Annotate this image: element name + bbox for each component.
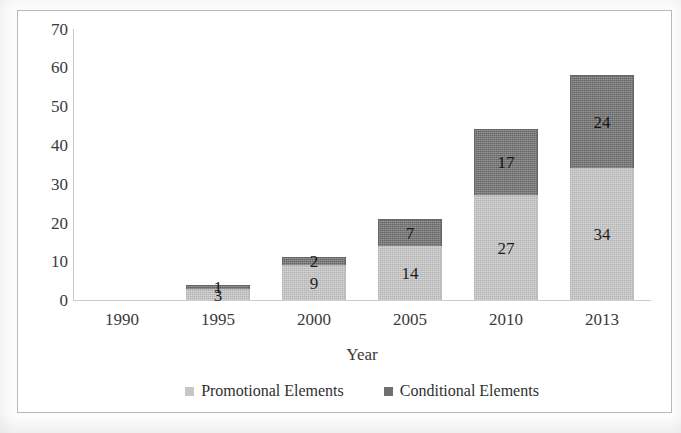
bar-segment-conditional-2010[interactable]: 17: [474, 129, 538, 195]
bar-segment-promotional-2013[interactable]: 34: [570, 168, 634, 300]
bar-stack-2000: 2 9: [282, 257, 346, 300]
legend-label-conditional: Conditional Elements: [400, 383, 539, 399]
x-tick-2013: 2013: [554, 309, 650, 331]
y-tick-0: 0: [32, 292, 68, 309]
bar-stack-1995: 1 3: [186, 285, 250, 300]
bar-stack-2013: 24 34: [570, 75, 634, 300]
y-axis-labels: 70 60 50 40 30 20 10 0: [26, 11, 68, 433]
bar-segment-promotional-1995[interactable]: 3: [186, 289, 250, 300]
bar-segment-conditional-2000[interactable]: 2: [282, 257, 346, 265]
scanned-page: 70 60 50 40 30 20 10 0 1: [0, 0, 681, 433]
legend-swatch-icon-conditional: [384, 387, 393, 396]
bar-segment-promotional-2005[interactable]: 14: [378, 246, 442, 300]
bar-label-promotional-1995: 3: [214, 287, 223, 304]
legend-item-promotional[interactable]: Promotional Elements: [185, 383, 344, 399]
bar-label-promotional-2010: 27: [498, 240, 515, 257]
x-tick-2005: 2005: [362, 309, 458, 331]
y-tick-50: 50: [32, 98, 68, 115]
y-tick-30: 30: [32, 176, 68, 193]
x-tick-2000: 2000: [266, 309, 362, 331]
bar-stack-2010: 17 27: [474, 129, 538, 300]
y-tick-40: 40: [32, 137, 68, 154]
y-tick-10: 10: [32, 253, 68, 270]
x-axis-labels: 1990 1995 2000 2005 2010 2013: [73, 309, 651, 337]
bar-stack-2005: 7 14: [378, 219, 442, 300]
plot-area: 1 3 2 9: [73, 29, 651, 300]
bar-label-promotional-2005: 14: [402, 265, 419, 282]
legend-item-conditional[interactable]: Conditional Elements: [384, 383, 539, 399]
legend-label-promotional: Promotional Elements: [201, 383, 344, 399]
legend-swatch-icon-promotional: [185, 387, 194, 396]
bar-segment-promotional-2010[interactable]: 27: [474, 195, 538, 300]
x-tick-1995: 1995: [170, 309, 266, 331]
bar-label-conditional-2005: 7: [406, 225, 415, 242]
x-tick-2010: 2010: [458, 309, 554, 331]
x-axis-title: Year: [73, 345, 651, 365]
x-tick-1990: 1990: [74, 309, 170, 331]
bar-label-conditional-2000: 2: [310, 253, 319, 270]
y-tick-20: 20: [32, 215, 68, 232]
bar-segment-conditional-2005[interactable]: 7: [378, 219, 442, 246]
chart-legend: Promotional Elements Conditional Element…: [73, 383, 651, 399]
bar-label-conditional-2010: 17: [498, 154, 515, 171]
bar-label-promotional-2000: 9: [310, 275, 319, 292]
y-tick-60: 60: [32, 59, 68, 76]
bar-label-promotional-2013: 34: [594, 226, 611, 243]
category-axis-line: [73, 300, 651, 301]
y-tick-70: 70: [32, 21, 68, 38]
bar-segment-conditional-2013[interactable]: 24: [570, 75, 634, 168]
chart-frame: 70 60 50 40 30 20 10 0 1: [17, 10, 672, 413]
bar-label-conditional-2013: 24: [594, 114, 611, 131]
